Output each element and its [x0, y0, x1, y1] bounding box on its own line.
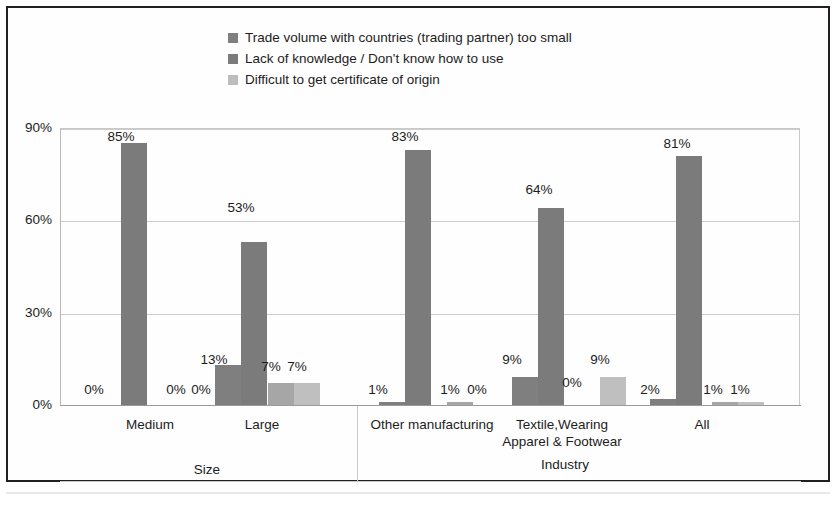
- y-axis-tick-label: 30%: [8, 305, 52, 320]
- group-label: Size: [194, 462, 220, 477]
- group-separator: [357, 406, 358, 482]
- bar-value-label: 0%: [191, 382, 211, 397]
- bar: [650, 399, 676, 405]
- category-label: Medium: [126, 416, 174, 433]
- bar-value-label: 0%: [84, 382, 104, 397]
- bar-value-label: 2%: [640, 382, 660, 397]
- bar: [712, 402, 738, 405]
- plot-wrapper: 90%60%30%0% 0%13%1%9%2%85%53%83%64%81%0%…: [0, 0, 837, 517]
- bar: [538, 208, 564, 405]
- bar-value-label: 1%: [440, 382, 460, 397]
- category-label: All: [694, 416, 709, 433]
- bar-value-label: 83%: [391, 129, 418, 144]
- bar: [215, 365, 241, 405]
- bar-value-label: 7%: [287, 359, 307, 374]
- bar: [241, 242, 267, 405]
- bar-value-label: 85%: [107, 129, 134, 144]
- category-label: Other manufacturing: [370, 416, 493, 433]
- category-label: Textile,WearingApparel & Footwear: [502, 416, 621, 450]
- bar-value-label: 7%: [261, 359, 281, 374]
- bar: [405, 150, 431, 405]
- bar: [121, 143, 147, 405]
- bar: [379, 402, 405, 405]
- bar-value-label: 0%: [467, 382, 487, 397]
- bar-value-label: 9%: [590, 352, 610, 367]
- bar: [268, 383, 294, 405]
- bar: [676, 156, 702, 405]
- bar: [738, 402, 764, 405]
- bar-value-label: 13%: [200, 352, 227, 367]
- bar-value-label: 81%: [663, 136, 690, 151]
- bar-value-label: 9%: [502, 352, 522, 367]
- y-axis-tick-label: 0%: [8, 397, 52, 412]
- bar: [600, 377, 626, 405]
- chart-page: Trade volume with countries (trading par…: [0, 0, 837, 517]
- bar-value-label: 53%: [227, 200, 254, 215]
- bar: [294, 383, 320, 405]
- bar-value-label: 1%: [730, 382, 750, 397]
- y-axis-tick-label: 90%: [8, 120, 52, 135]
- category-label: Large: [245, 416, 280, 433]
- bar-value-label: 64%: [525, 182, 552, 197]
- y-axis-tick-label: 60%: [8, 212, 52, 227]
- y-axis-ticks: 90%60%30%0%: [0, 0, 52, 517]
- bar-value-label: 0%: [166, 382, 186, 397]
- bar-value-label: 1%: [703, 382, 723, 397]
- bar: [512, 377, 538, 405]
- bar-value-label: 0%: [562, 375, 582, 390]
- bar: [447, 402, 473, 405]
- group-label: Industry: [541, 457, 589, 472]
- gridline: [61, 129, 799, 130]
- bar-value-label: 1%: [368, 382, 388, 397]
